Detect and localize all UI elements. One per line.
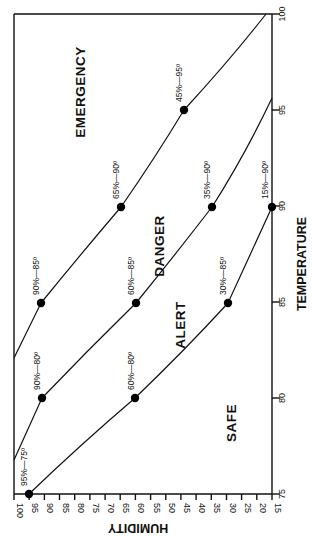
svg-text:90: 90 [45,503,55,513]
svg-text:60: 60 [136,503,146,513]
humidity-ticks [14,494,272,500]
svg-text:85: 85 [277,297,287,307]
point-65-90 [117,203,125,211]
svg-text:95%—75º: 95%—75º [19,448,29,486]
svg-text:60%—80º: 60%—80º [126,352,136,390]
safe-alert-boundary-line [29,207,272,494]
svg-text:65%—90º: 65%—90º [111,161,121,199]
svg-text:25: 25 [243,503,253,513]
svg-text:90%—80º: 90%—80º [32,352,42,390]
svg-text:50: 50 [167,503,177,513]
svg-text:15: 15 [273,503,283,513]
point-35-90 [208,203,216,211]
temperature-ticks [272,14,280,494]
zone-label-alert: ALERT [173,301,188,349]
svg-text:15%—90º: 15%—90º [260,161,270,199]
svg-text:20: 20 [258,503,268,513]
point-90-85 [37,299,45,307]
point-60-85 [132,299,140,307]
point-45-95 [180,106,188,114]
temperature-axis-title: TEMPERATURE [295,217,309,311]
temperature-tick-labels: 75 80 85 90 95 100 [277,6,287,499]
svg-text:95: 95 [30,503,40,513]
point-90-80 [38,394,46,402]
humidity-axis-title: HUMIDITY [107,521,168,535]
heat-index-chart: 100 95 90 85 80 75 70 65 60 55 50 45 40 … [0,0,312,536]
svg-text:100: 100 [15,503,25,518]
svg-text:65: 65 [121,503,131,513]
svg-text:45: 45 [182,503,192,513]
svg-text:60%—85º: 60%—85º [126,257,136,295]
svg-text:45%—95º: 45%—95º [174,64,184,102]
humidity-tick-labels: 100 95 90 85 80 75 70 65 60 55 50 45 40 … [15,503,283,518]
zone-label-emergency: EMERGENCY [73,46,88,138]
point-95-75 [25,490,33,498]
svg-text:90%—85º: 90%—85º [31,257,41,295]
svg-text:70: 70 [106,503,116,513]
svg-text:30: 30 [228,503,238,513]
svg-text:90: 90 [277,201,287,211]
svg-text:35: 35 [212,503,222,513]
point-15-90 [268,203,276,211]
svg-text:85: 85 [61,503,71,513]
svg-text:40: 40 [197,503,207,513]
svg-text:75: 75 [91,503,101,513]
svg-text:95: 95 [277,105,287,115]
svg-text:55: 55 [152,503,162,513]
svg-text:100: 100 [277,6,287,21]
svg-text:30%—85º: 30%—85º [218,257,228,295]
svg-text:80: 80 [76,503,86,513]
point-60-80 [131,394,139,402]
svg-text:75: 75 [277,489,287,499]
point-30-85 [224,299,232,307]
svg-text:80: 80 [277,393,287,403]
zone-label-safe: SAFE [224,404,239,442]
svg-text:35%—90º: 35%—90º [202,161,212,199]
zone-label-danger: DANGER [152,215,167,277]
